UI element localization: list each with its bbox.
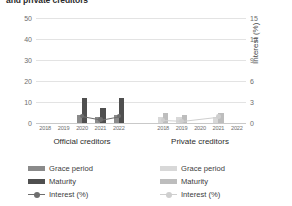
gridline	[36, 102, 246, 103]
legend-label: Grace period	[181, 164, 225, 173]
y-tick-label: 40	[8, 36, 32, 43]
panel-label-private: Private creditors	[140, 137, 260, 147]
gridline	[36, 18, 246, 19]
axis-baseline	[36, 123, 246, 124]
y2-tick-label: 12	[250, 36, 274, 43]
legend-item[interactable]: Maturity	[160, 175, 225, 188]
legend-label: Interest (%)	[181, 190, 220, 199]
legend-item[interactable]: Maturity	[28, 175, 93, 188]
legend-label: Maturity	[181, 177, 208, 186]
interest-marker-2021	[98, 117, 103, 122]
legend-item[interactable]: Interest (%)	[160, 188, 225, 201]
y2-tick-label: 15	[250, 15, 274, 22]
legend-line-marker-icon	[160, 191, 177, 198]
legend-item[interactable]: Grace period	[160, 162, 225, 175]
y2-tick-label: 0	[250, 120, 274, 127]
legend-item[interactable]: Grace period	[28, 162, 93, 175]
bar-maturity-2020	[82, 98, 87, 123]
plot-area	[36, 18, 246, 123]
legend-label: Grace period	[49, 164, 93, 173]
legend-swatch-icon	[160, 166, 177, 172]
legend-swatch-icon	[28, 179, 45, 185]
y2-tick-label: 6	[250, 78, 274, 85]
legend-swatch-icon	[160, 179, 177, 185]
x-tick-label: 2022	[108, 125, 130, 131]
y-tick-label: 50	[8, 15, 32, 22]
gridline	[36, 60, 246, 61]
y-tick-label: 10	[8, 99, 32, 106]
y2-tick-label: 3	[250, 99, 274, 106]
legend-private-creditors: Grace periodMaturityInterest (%)	[160, 162, 225, 201]
legend-label: Interest (%)	[49, 190, 88, 199]
interest-marker-2021	[216, 114, 221, 119]
chart-figure: and private creditors Years Interest (%)…	[0, 0, 292, 206]
panel-label-official: Official creditors	[22, 137, 142, 147]
bar-maturity-2022	[119, 98, 124, 123]
gridline	[36, 81, 246, 82]
y-tick-label: 0	[8, 120, 32, 127]
legend-label: Maturity	[49, 177, 76, 186]
legend-line-marker-icon	[28, 191, 45, 198]
chart-title: and private creditors	[6, 0, 246, 6]
y-tick-label: 20	[8, 78, 32, 85]
legend-item[interactable]: Interest (%)	[28, 188, 93, 201]
gridline	[36, 39, 246, 40]
legend-official-creditors: Grace periodMaturityInterest (%)	[28, 162, 93, 201]
y-tick-label: 30	[8, 57, 32, 64]
y2-tick-label: 9	[250, 57, 274, 64]
legend-swatch-icon	[28, 166, 45, 172]
interest-marker-2019	[179, 119, 184, 124]
x-tick-label: 2022	[226, 125, 248, 131]
